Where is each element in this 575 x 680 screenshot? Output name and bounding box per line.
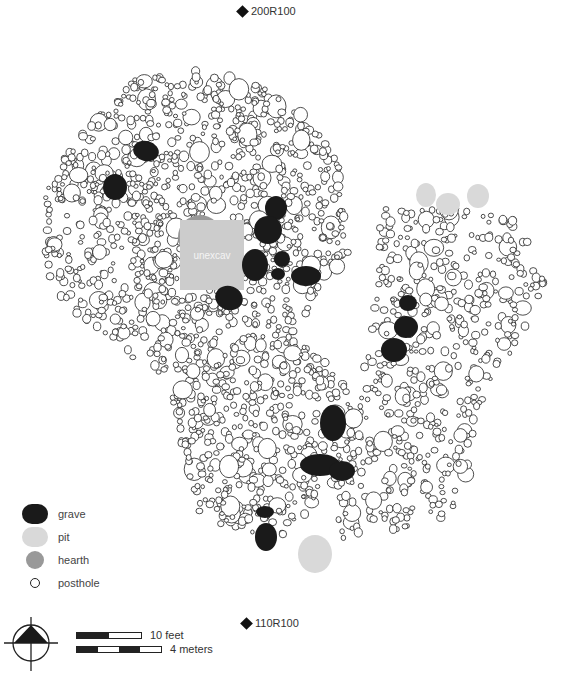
datum-south-label: 110R100 (255, 617, 299, 629)
legend-item-pit: pit (20, 525, 100, 548)
grave (255, 523, 277, 551)
datum-north: 200R100 (238, 5, 296, 17)
meters-bar-icon (76, 646, 162, 653)
north-arrow-icon (4, 617, 58, 671)
grave (271, 268, 285, 280)
datum-diamond-icon (236, 5, 249, 18)
grave (394, 316, 418, 338)
grave (329, 461, 355, 481)
grave (320, 405, 346, 441)
grave (242, 249, 268, 281)
datum-diamond-icon (240, 617, 253, 630)
datum-south: 110R100 (242, 617, 299, 629)
pit (436, 193, 460, 215)
grave (256, 506, 274, 518)
hearth-swatch-icon (26, 551, 44, 569)
grave (274, 251, 290, 267)
grave (254, 216, 282, 244)
feet-bar-icon (76, 632, 142, 639)
scale-bar-meters: 4 meters (76, 642, 213, 656)
grave-swatch-icon (22, 504, 48, 524)
grave (381, 338, 407, 362)
legend: grave pit hearth posthole (20, 502, 100, 594)
scale-bar-feet: 10 feet (76, 628, 213, 642)
legend-item-hearth: hearth (20, 548, 100, 571)
pit-swatch-icon (22, 527, 48, 547)
scale-bars: 10 feet 4 meters (76, 628, 213, 656)
postholes-layer (42, 67, 547, 541)
pit (298, 535, 332, 573)
pit (416, 183, 436, 207)
grave (399, 295, 417, 311)
legend-item-posthole: posthole (20, 571, 100, 594)
unexcavated-label: unexcav (180, 250, 244, 261)
posthole-swatch-icon (30, 578, 40, 588)
grave (291, 266, 321, 286)
grave (103, 174, 127, 200)
datum-north-label: 200R100 (251, 5, 296, 17)
pit (467, 184, 489, 208)
legend-item-grave: grave (20, 502, 100, 525)
